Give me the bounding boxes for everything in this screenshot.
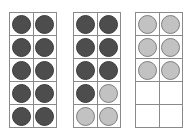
frame1-cell-r5c2 bbox=[34, 105, 58, 128]
counter-dark bbox=[76, 38, 95, 57]
frame2-cell-r3c1 bbox=[74, 59, 98, 82]
counter-light bbox=[99, 107, 118, 126]
frame2-cell-r2c1 bbox=[74, 36, 98, 59]
frame2-cell-r5c2 bbox=[98, 105, 122, 128]
counter-light bbox=[99, 84, 118, 103]
frame1-cell-r2c2 bbox=[34, 36, 58, 59]
counter-dark bbox=[35, 38, 54, 57]
counter-dark bbox=[12, 15, 31, 34]
frame3-cell-r1c1 bbox=[136, 13, 160, 36]
frame3-cell-r4c2 bbox=[160, 82, 184, 105]
frame3-cell-r4c1 bbox=[136, 82, 160, 105]
counter-dark bbox=[12, 84, 31, 103]
counter-light bbox=[138, 61, 157, 80]
frame1-cell-r1c1 bbox=[10, 13, 34, 36]
frame2-cell-r4c1 bbox=[74, 82, 98, 105]
counter-dark bbox=[35, 61, 54, 80]
counter-light bbox=[161, 15, 180, 34]
counter-dark bbox=[99, 38, 118, 57]
ten-frame-3 bbox=[135, 12, 183, 128]
frame3-cell-r3c2 bbox=[160, 59, 184, 82]
counter-dark bbox=[35, 15, 54, 34]
frame3-cell-r2c2 bbox=[160, 36, 184, 59]
frame1-cell-r4c2 bbox=[34, 82, 58, 105]
frame1-cell-r2c1 bbox=[10, 36, 34, 59]
frame2-cell-r2c2 bbox=[98, 36, 122, 59]
counter-dark bbox=[35, 107, 54, 126]
counter-dark bbox=[76, 84, 95, 103]
frame2-cell-r3c2 bbox=[98, 59, 122, 82]
counter-dark bbox=[12, 61, 31, 80]
ten-frame-1 bbox=[9, 12, 57, 128]
counter-dark bbox=[76, 61, 95, 80]
counter-dark bbox=[99, 61, 118, 80]
counter-dark bbox=[76, 15, 95, 34]
counter-dark bbox=[99, 15, 118, 34]
counter-dark bbox=[12, 107, 31, 126]
frame1-cell-r5c1 bbox=[10, 105, 34, 128]
frame3-cell-r5c1 bbox=[136, 105, 160, 128]
counter-light bbox=[161, 38, 180, 57]
frame2-cell-r5c1 bbox=[74, 105, 98, 128]
frame3-cell-r1c2 bbox=[160, 13, 184, 36]
counter-dark bbox=[35, 84, 54, 103]
counter-light bbox=[161, 61, 180, 80]
frame1-cell-r1c2 bbox=[34, 13, 58, 36]
ten-frame-2 bbox=[73, 12, 121, 128]
frame1-cell-r3c2 bbox=[34, 59, 58, 82]
frame2-cell-r4c2 bbox=[98, 82, 122, 105]
frame3-cell-r3c1 bbox=[136, 59, 160, 82]
counter-light bbox=[76, 107, 95, 126]
counter-light bbox=[138, 38, 157, 57]
frame3-cell-r2c1 bbox=[136, 36, 160, 59]
counter-dark bbox=[12, 38, 31, 57]
frame1-cell-r3c1 bbox=[10, 59, 34, 82]
frame3-cell-r5c2 bbox=[160, 105, 184, 128]
counter-light bbox=[138, 15, 157, 34]
figure-canvas bbox=[0, 0, 191, 137]
frame2-cell-r1c2 bbox=[98, 13, 122, 36]
frame1-cell-r4c1 bbox=[10, 82, 34, 105]
frame2-cell-r1c1 bbox=[74, 13, 98, 36]
